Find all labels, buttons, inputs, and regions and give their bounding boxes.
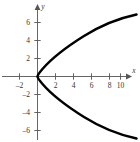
x-tick-label-6: 6 bbox=[90, 81, 94, 90]
y-tick-label--4: –4 bbox=[22, 108, 31, 117]
y-tick-label-6: 6 bbox=[26, 18, 30, 27]
x-axis-arrow-icon bbox=[126, 74, 132, 80]
y-axis-label: y bbox=[40, 2, 45, 11]
graph-figure: –2 2 4 6 8 10 6 4 2 –2 –4 –6 x y bbox=[0, 0, 140, 142]
y-axis-arrow-icon bbox=[35, 4, 41, 10]
y-tick-label--6: –6 bbox=[22, 126, 31, 135]
y-tick-label-2: 2 bbox=[26, 54, 30, 63]
x-tick-label--2: –2 bbox=[15, 81, 24, 90]
x-tick-label-8: 8 bbox=[108, 81, 112, 90]
coordinate-plot: –2 2 4 6 8 10 6 4 2 –2 –4 –6 x y bbox=[0, 0, 140, 142]
x-tick-label-2: 2 bbox=[54, 81, 58, 90]
y-tick-label--2: –2 bbox=[22, 90, 31, 99]
x-axis-label: x bbox=[131, 66, 136, 75]
x-tick-label-10: 10 bbox=[117, 81, 125, 90]
x-tick-label-4: 4 bbox=[72, 81, 76, 90]
y-tick-label-4: 4 bbox=[26, 36, 30, 45]
